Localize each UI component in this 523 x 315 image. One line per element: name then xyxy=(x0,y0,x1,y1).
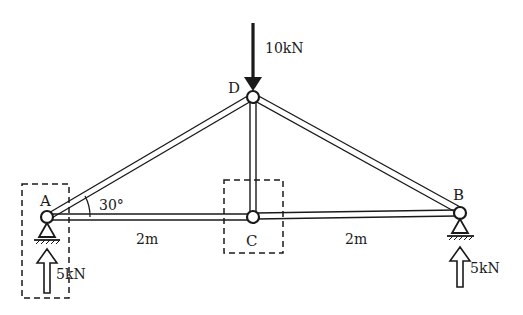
dimension-label-AC: 2m xyxy=(136,231,158,247)
node-label-A: A xyxy=(39,192,51,210)
pin-support-A-icon xyxy=(34,223,60,244)
load-label-D: 10kN xyxy=(265,40,304,56)
member-AC xyxy=(50,214,250,220)
dimension-label-CB: 2m xyxy=(345,231,367,247)
reaction-label-B: 5kN xyxy=(470,260,500,276)
reaction-arrow-B-icon xyxy=(450,247,470,287)
member-CB xyxy=(256,210,456,219)
node-label-C: C xyxy=(246,232,257,250)
member-DC xyxy=(250,100,256,213)
truss-diagram: A B C D 30° 2m 2m 10kN 5kN 5kN xyxy=(0,0,523,315)
node-label-D: D xyxy=(228,79,240,97)
node-label-B: B xyxy=(453,186,464,204)
reaction-label-A: 5kN xyxy=(56,266,86,282)
load-arrow-D-icon xyxy=(244,23,262,91)
angle-label: 30° xyxy=(99,197,124,213)
member-DB xyxy=(253,94,462,214)
pin-support-B-icon xyxy=(447,219,474,240)
reaction-arrow-A-icon xyxy=(37,249,57,293)
joint-D xyxy=(247,91,259,103)
member-AD xyxy=(47,94,253,219)
joint-C xyxy=(247,211,259,223)
